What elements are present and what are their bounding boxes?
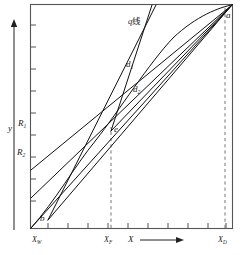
q-line-text: 线	[132, 16, 141, 26]
reference-dashed-lines	[111, 7, 225, 228]
d1-symbol: d	[126, 59, 131, 69]
x-axis-arrow-icon	[140, 237, 184, 243]
x-axis-label: X	[128, 235, 134, 244]
r2-symbol: R	[17, 147, 23, 157]
line-r1-label: R1	[18, 119, 26, 128]
x-w-subscript: W	[37, 239, 41, 245]
x-axis-ticks	[48, 223, 226, 229]
rectifying-line-r1	[31, 5, 232, 170]
point-a-label: a	[226, 11, 231, 20]
r1-subscript: 1	[24, 123, 27, 129]
plot-curves	[31, 5, 232, 228]
x-d-tick-label: XD	[218, 236, 227, 244]
point-e-label: e	[114, 125, 118, 134]
r2-subscript: 2	[23, 152, 26, 158]
point-d1-label: d1	[126, 60, 133, 69]
plot-canvas	[0, 0, 244, 255]
distillation-diagram-figure: y X XW XF XD a b e d1 d2 R1 R2 q线	[0, 0, 244, 255]
d2-symbol: d	[133, 84, 138, 94]
x-d-subscript: D	[223, 239, 227, 245]
x-w-tick-label: XW	[32, 236, 41, 244]
x-f-tick-label: XF	[104, 236, 112, 244]
point-b-label: b	[40, 214, 45, 223]
d2-subscript: 2	[138, 89, 141, 95]
r1-symbol: R	[18, 118, 24, 128]
y-axis-label: y	[8, 124, 12, 133]
point-d2-label: d2	[133, 85, 140, 94]
rectifying-line-r2	[31, 5, 232, 198]
q-line-label: q线	[128, 17, 141, 26]
y-axis-ticks	[31, 25, 37, 201]
x-f-subscript: F	[109, 239, 112, 245]
d1-subscript: 1	[131, 64, 134, 70]
line-r2-label: R2	[17, 148, 25, 157]
